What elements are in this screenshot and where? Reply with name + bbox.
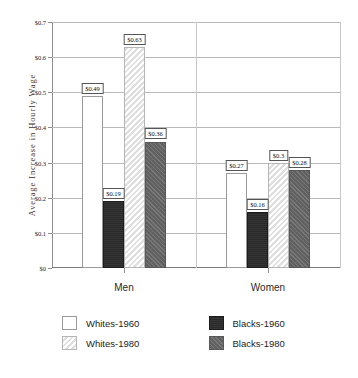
data-label: $0.27 bbox=[225, 160, 248, 171]
bar-chart: Average Increase in Hourly Wage $0.7$0.6… bbox=[0, 0, 358, 378]
y-axis-tick-label: $0.4 bbox=[35, 124, 46, 131]
x-axis-tick bbox=[268, 268, 269, 273]
legend-swatch-blacks-1980 bbox=[209, 336, 224, 350]
legend-label: Whites-1960 bbox=[86, 318, 139, 329]
chart-legend: Whites-1960Blacks-1960Whites-1980Blacks-… bbox=[62, 316, 332, 350]
category-separator bbox=[196, 22, 197, 268]
y-axis-tick-label: $0.6 bbox=[35, 54, 46, 61]
bar-blacks-1960-women bbox=[247, 212, 268, 268]
y-axis-tick bbox=[48, 92, 52, 93]
bar-blacks-1980-women bbox=[289, 170, 310, 268]
y-axis-tick bbox=[48, 57, 52, 58]
y-axis-tick-label: $0.2 bbox=[35, 194, 46, 201]
data-label: $0.28 bbox=[288, 157, 311, 168]
legend-label: Blacks-1960 bbox=[233, 318, 285, 329]
bar-whites-1980-men bbox=[124, 47, 145, 268]
legend-item: Blacks-1980 bbox=[209, 336, 332, 350]
data-label: $0.63 bbox=[123, 34, 146, 45]
data-label: $0.19 bbox=[102, 188, 125, 199]
y-axis-tick bbox=[48, 22, 52, 23]
y-axis-tick bbox=[48, 233, 52, 234]
y-axis-tick-label: $0.5 bbox=[35, 89, 46, 96]
y-axis-tick bbox=[48, 268, 52, 269]
legend-item: Blacks-1960 bbox=[209, 316, 332, 330]
data-label: $0.36 bbox=[144, 128, 167, 139]
x-axis-tick bbox=[124, 268, 125, 273]
x-axis-category-label: Men bbox=[114, 282, 133, 293]
y-axis-tick bbox=[48, 163, 52, 164]
bar-whites-1960-men bbox=[82, 96, 103, 268]
x-axis-category-label: Women bbox=[251, 282, 285, 293]
y-axis-tick bbox=[48, 198, 52, 199]
legend-label: Whites-1980 bbox=[86, 338, 139, 349]
legend-item: Whites-1980 bbox=[62, 336, 187, 350]
category-separator bbox=[340, 22, 341, 268]
y-axis-title: Average Increase in Hourly Wage bbox=[27, 45, 37, 245]
bar-blacks-1960-men bbox=[103, 201, 124, 268]
y-axis-tick-label: $0.1 bbox=[35, 229, 46, 236]
bar-blacks-1980-men bbox=[145, 142, 166, 269]
data-label: $0.3 bbox=[269, 150, 288, 161]
bar-whites-1960-women bbox=[226, 173, 247, 268]
y-axis-line bbox=[52, 22, 53, 268]
data-label: $0.49 bbox=[81, 83, 104, 94]
y-axis-tick-label: $0 bbox=[40, 265, 47, 272]
legend-swatch-whites-1960 bbox=[62, 316, 77, 330]
data-label: $0.16 bbox=[246, 199, 269, 210]
legend-swatch-blacks-1960 bbox=[209, 316, 224, 330]
legend-item: Whites-1960 bbox=[62, 316, 187, 330]
y-axis-tick bbox=[48, 127, 52, 128]
y-axis-tick-label: $0.3 bbox=[35, 159, 46, 166]
legend-swatch-whites-1980 bbox=[62, 336, 77, 350]
plot-area: $0.7$0.6$0.5$0.4$0.3$0.2$0.1$0$0.49$0.19… bbox=[52, 22, 340, 268]
bar-whites-1980-women bbox=[268, 163, 289, 268]
y-axis-tick-label: $0.7 bbox=[35, 19, 46, 26]
legend-label: Blacks-1980 bbox=[233, 338, 285, 349]
